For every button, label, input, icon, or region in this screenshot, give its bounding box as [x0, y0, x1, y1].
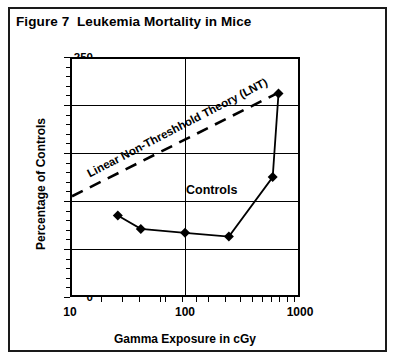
- x-minor-tick: [279, 297, 280, 302]
- x-tick-label-1000: 1000: [287, 305, 314, 319]
- controls-annotation-label: Controls: [186, 183, 237, 197]
- x-minor-tick: [271, 297, 272, 302]
- x-minor-tick: [139, 297, 140, 302]
- x-minor-tick: [101, 297, 102, 302]
- x-minor-tick: [165, 297, 166, 302]
- data-point-marker: [274, 89, 284, 99]
- chart-plot: 0 50 100 150 200 250: [0, 0, 395, 360]
- data-point-marker: [113, 211, 123, 221]
- x-minor-tick: [182, 297, 183, 302]
- x-minor-tick: [225, 297, 226, 302]
- y-axis-title: Percentage of Controls: [34, 79, 48, 289]
- data-point-marker: [180, 228, 190, 238]
- plot-area: [70, 57, 300, 297]
- x-minor-tick: [262, 297, 263, 302]
- x-minor-tick: [287, 297, 288, 302]
- x-minor-tick: [208, 297, 209, 302]
- x-minor-tick: [240, 297, 241, 302]
- x-minor-tick: [294, 297, 295, 302]
- lnt-theory-line: [72, 93, 279, 197]
- data-point-marker: [136, 224, 146, 234]
- x-minor-tick: [252, 297, 253, 302]
- x-minor-tick: [122, 297, 123, 302]
- series-svg: [72, 59, 302, 299]
- x-tick-label-10: 10: [63, 305, 76, 319]
- x-minor-tick: [196, 297, 197, 302]
- x-tick-label-100: 100: [175, 305, 195, 319]
- x-minor-tick: [160, 297, 161, 302]
- x-axis-title: Gamma Exposure in cGy: [70, 332, 300, 346]
- y-tick-mark-0: [64, 297, 70, 298]
